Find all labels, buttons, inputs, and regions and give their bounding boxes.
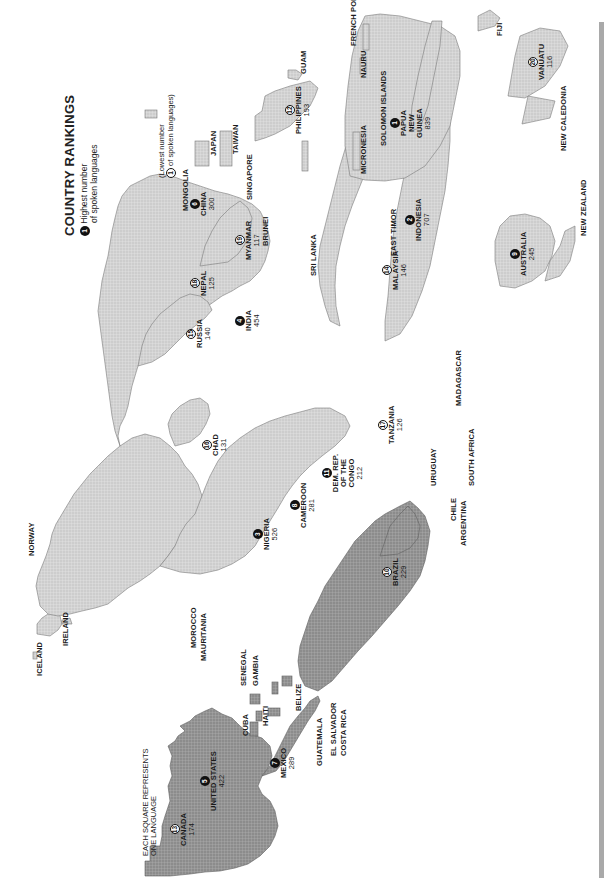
label-gambia: GAMBIA (252, 655, 260, 686)
country-name: DEM. REP. OF THE CONGO (332, 448, 356, 498)
rank-16-chad: 16 CHAD 131 (202, 434, 228, 456)
language-count: 454 (252, 314, 261, 327)
rank-5-united-states: 5 UNITED STATES 422 (200, 751, 226, 811)
label-senegal: SENEGAL (240, 649, 248, 686)
label-ireland: IRELAND (62, 612, 70, 646)
language-count: 300 (207, 197, 216, 210)
legend-lowest-line1: (Lowest number (157, 124, 166, 178)
language-count: 245 (527, 247, 536, 260)
rank-18-nepal: 18 NEPAL 125 (190, 271, 216, 296)
rank-17-tanzania: 17 TANZANIA 126 (378, 405, 404, 444)
rank-2-indonesia: 2 INDONESIA 707 (405, 198, 431, 241)
label-mauritania: MAURITANIA (200, 613, 208, 661)
label-fiji: FIJI (496, 23, 504, 36)
label-belize: BELIZE (295, 684, 303, 711)
label-south-africa: SOUTH AFRICA (468, 428, 476, 486)
label-el-salvador: EL SALVADOR (330, 702, 338, 756)
label-french-polynesia: FRENCH POLYNESIA (350, 0, 358, 46)
rotated-map-stage: COUNTRY RANKINGS 1 Highest number of spo… (0, 0, 614, 886)
square-note-line2: ONE LANGUAGE (149, 796, 158, 856)
language-count: 126 (395, 418, 404, 431)
language-count: 193 (302, 104, 311, 117)
rank-11-dem-rep-congo: 11 DEM. REP. OF THE CONGO 212 (322, 448, 364, 498)
label-haiti: HAITI (262, 706, 270, 726)
south-america (298, 501, 430, 691)
label-guatemala: GUATEMALA (316, 718, 324, 766)
label-micronesia: MICRONESIA (360, 125, 368, 174)
country-name: PAPUA NEW GUINEA (400, 106, 424, 140)
rank-15-russia: 15 RUSSIA 140 (186, 319, 212, 348)
legend-highest-line2: of spoken languages (89, 145, 99, 236)
map-title: COUNTRY RANKINGS (62, 95, 77, 236)
legend-lowest: (Lowest number 1 of spoken languages) (158, 94, 176, 178)
language-count: 839 (423, 117, 432, 130)
rank-8-cameroon: 8 CAMEROON 281 (290, 483, 316, 528)
rank-20-vanuatu: 20 VANUATU 116 (528, 44, 554, 80)
rank-13-canada: 13 CANADA 174 (170, 813, 196, 846)
label-solomon-islands: SOLOMON ISLANDS (380, 71, 388, 146)
legend-lowest-badge: 1 (166, 168, 176, 178)
label-chile: CHILE (450, 498, 458, 521)
language-count: 229 (399, 566, 408, 579)
language-count: 281 (307, 499, 316, 512)
language-count: 422 (217, 775, 226, 788)
label-guam: GUAM (300, 51, 308, 74)
label-argentina: ARGENTINA (460, 501, 468, 546)
rank-6-china: 6 CHINA 300 (190, 192, 216, 216)
label-mongolia: MONGOLIA (182, 169, 190, 211)
label-cuba: CUBA (242, 714, 250, 736)
language-count: 125 (207, 277, 216, 290)
label-sri-lanka: SRI LANKA (310, 234, 318, 276)
language-count: 131 (219, 439, 228, 452)
language-count: 707 (422, 213, 431, 226)
language-count: 140 (203, 327, 212, 340)
label-morocco: MOROCCO (190, 607, 198, 648)
rank-9-australia: 9 AUSTRALIA 245 (510, 232, 536, 276)
label-iceland: ICELAND (36, 642, 44, 676)
label-costa-rica: COSTA RICA (340, 709, 348, 756)
rank-19-myanmar: 19 MYANMAR 117 (235, 221, 261, 260)
label-singapore: EAST TIMOR (390, 209, 398, 256)
label-taiwan: TAIWAN (232, 124, 240, 154)
rank-4-india: 4 INDIA 454 (235, 310, 261, 331)
label-new-caledonia: NEW CALEDONIA (560, 86, 568, 151)
label-madagascar: MADAGASCAR (455, 350, 463, 406)
rank-10-brazil: 10 BRAZIL 229 (382, 558, 408, 586)
label-new-zealand: NEW ZEALAND (580, 179, 588, 236)
square-legend-note: EACH SQUARE REPRESENTS ONE LANGUAGE (142, 748, 158, 856)
label-nauru: NAURU (360, 50, 368, 78)
label-japan: JAPAN (210, 131, 218, 156)
language-count: 116 (545, 56, 554, 68)
label-vietnam: SINGAPORE (246, 154, 254, 200)
legend-lowest-line2: of spoken languages) (166, 94, 175, 166)
rank-7-mexico: 7 MEXICO 289 (270, 748, 296, 778)
language-count: 212 (355, 467, 364, 480)
language-count: 289 (287, 757, 296, 770)
rank-1-papua-new-guinea: 1 PAPUA NEW GUINEA 839 (390, 106, 432, 140)
legend-highest-line1: Highest number (79, 164, 89, 224)
rank-3-nigeria: 3 NIGERIA 526 (253, 518, 279, 550)
language-count: 117 (252, 234, 261, 246)
language-count: 146 (399, 264, 408, 277)
language-count: 526 (270, 528, 279, 541)
label-norway: NORWAY (28, 522, 36, 556)
legend-highest: 1 Highest number of spoken languages (80, 145, 99, 236)
language-count: 174 (187, 823, 196, 836)
label-cambodia: BRUNEI (262, 217, 270, 246)
rank-14-malaysia: 14 MALAYSIA 146 (382, 251, 408, 290)
label-uruguay: URUGUAY (430, 448, 438, 486)
rank-12-philippines: 12 PHILIPPINES 193 (285, 86, 311, 134)
